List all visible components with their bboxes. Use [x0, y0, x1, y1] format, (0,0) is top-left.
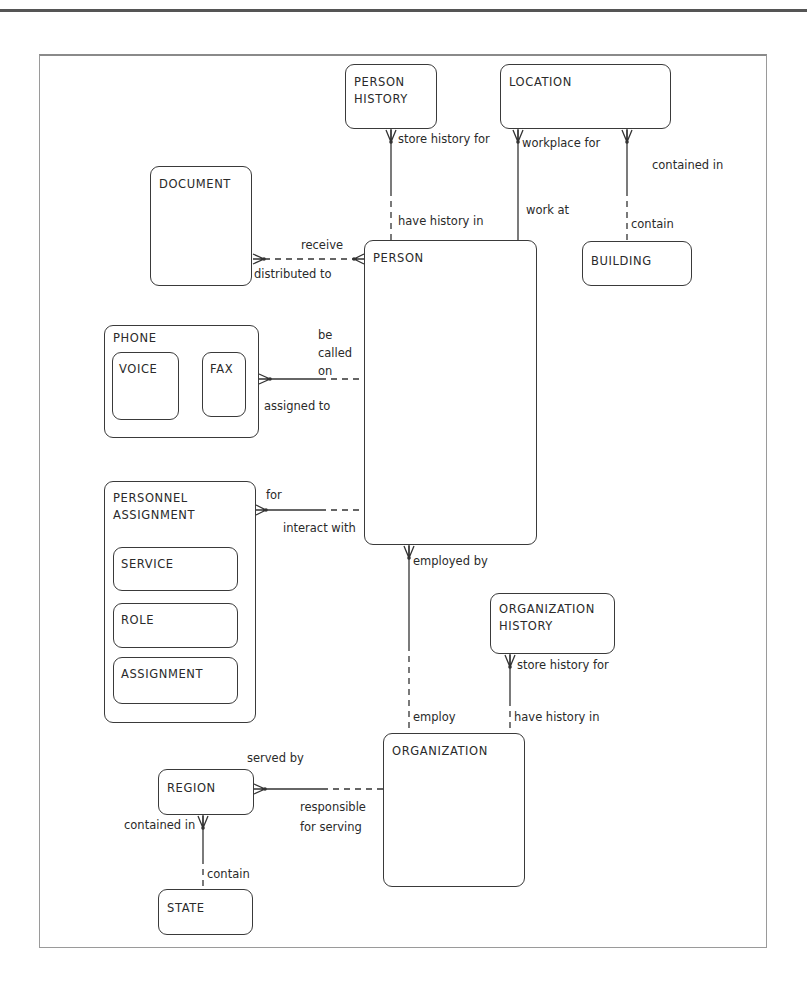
rel-label-assigned-to: assigned to [264, 398, 330, 415]
entity-name: ROLE [121, 612, 154, 629]
entity-fax[interactable]: FAX [202, 352, 246, 417]
entity-assignment[interactable]: ASSIGNMENT [113, 657, 238, 704]
rel-label-work-at: work at [526, 202, 569, 219]
rel-label-employ: employ [413, 709, 456, 726]
entity-name: REGION [167, 780, 216, 797]
rel-label-for: for [266, 487, 282, 504]
entity-person-history[interactable]: PERSON HISTORY [345, 64, 437, 129]
rel-label-have-history-in: have history in [398, 213, 484, 230]
rel-label-served-by: served by [247, 750, 304, 767]
rel-label-interact-with: interact with [283, 520, 356, 537]
entity-name: VOICE [119, 361, 157, 378]
entity-name: PHONE [113, 330, 157, 347]
rel-label-contained-in: contained in [652, 157, 723, 174]
entity-document[interactable]: DOCUMENT [150, 166, 252, 286]
entity-name: BUILDING [591, 253, 652, 270]
rel-label-org-store-history-for: store history for [517, 657, 609, 674]
rel-label-responsible-for-serving: responsible for serving [300, 797, 366, 837]
entity-name: ORGANIZATION [392, 743, 488, 760]
rel-label-employed-by: employed by [413, 553, 488, 570]
entity-building[interactable]: BUILDING [582, 241, 692, 286]
rel-label-distributed-to: distributed to [254, 266, 332, 283]
rel-label-org-have-history-in: have history in [514, 709, 600, 726]
entity-service[interactable]: SERVICE [113, 547, 238, 591]
rel-label-workplace-for: workplace for [522, 135, 600, 152]
entity-organization-history[interactable]: ORGANIZATION HISTORY [490, 593, 615, 654]
entity-name: LOCATION [509, 74, 572, 91]
entity-name: ASSIGNMENT [121, 666, 203, 683]
entity-region[interactable]: REGION [158, 769, 254, 815]
entity-name: PERSON HISTORY [354, 74, 408, 108]
rel-label-store-history-for: store history for [398, 131, 490, 148]
entity-name: PERSONNEL ASSIGNMENT [113, 490, 195, 524]
rel-label-region-contain: contain [207, 866, 250, 883]
entity-voice[interactable]: VOICE [112, 352, 179, 420]
entity-name: PERSON [373, 250, 424, 267]
entity-state[interactable]: STATE [158, 889, 253, 935]
entity-name: STATE [167, 900, 205, 917]
rel-label-contain: contain [631, 216, 674, 233]
entity-organization[interactable]: ORGANIZATION [383, 733, 525, 887]
entity-role[interactable]: ROLE [113, 603, 238, 648]
entity-person[interactable]: PERSON [364, 240, 537, 545]
entity-name: SERVICE [121, 556, 174, 573]
rel-label-region-contained-in: contained in [124, 817, 195, 834]
entity-location[interactable]: LOCATION [500, 64, 671, 129]
entity-name: FAX [210, 361, 233, 378]
entity-name: ORGANIZATION HISTORY [499, 601, 595, 635]
entity-name: DOCUMENT [159, 176, 231, 193]
rel-label-receive: receive [301, 237, 343, 254]
rel-label-be-called-on: be called on [318, 326, 352, 380]
